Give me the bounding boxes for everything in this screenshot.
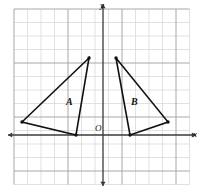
coordinate-plane-figure: y x O A B bbox=[0, 0, 204, 190]
triangle-a-label: A bbox=[66, 97, 73, 107]
x-axis-arrow-left bbox=[8, 132, 12, 137]
axes-lines bbox=[8, 4, 196, 186]
triangle-b-vertex-dot bbox=[128, 133, 131, 136]
y-axis-label: y bbox=[100, 1, 104, 10]
triangle-b-label: B bbox=[131, 97, 138, 107]
grid-minor-lines bbox=[14, 9, 190, 185]
triangle-a-vertex-dot bbox=[87, 56, 90, 59]
triangle-b-vertex-dot bbox=[114, 56, 117, 59]
triangle-a-vertex-dot bbox=[20, 120, 23, 123]
triangle-b bbox=[116, 58, 168, 135]
figure-canvas bbox=[0, 0, 204, 190]
origin-label: O bbox=[95, 124, 102, 133]
triangle-a-vertex-dot bbox=[74, 133, 77, 136]
triangle-b-vertex-dot bbox=[166, 120, 169, 123]
triangle-a bbox=[22, 58, 89, 135]
grid-major-lines bbox=[14, 9, 190, 185]
x-axis-label: x bbox=[193, 130, 197, 139]
y-axis-arrow-down bbox=[100, 182, 105, 186]
